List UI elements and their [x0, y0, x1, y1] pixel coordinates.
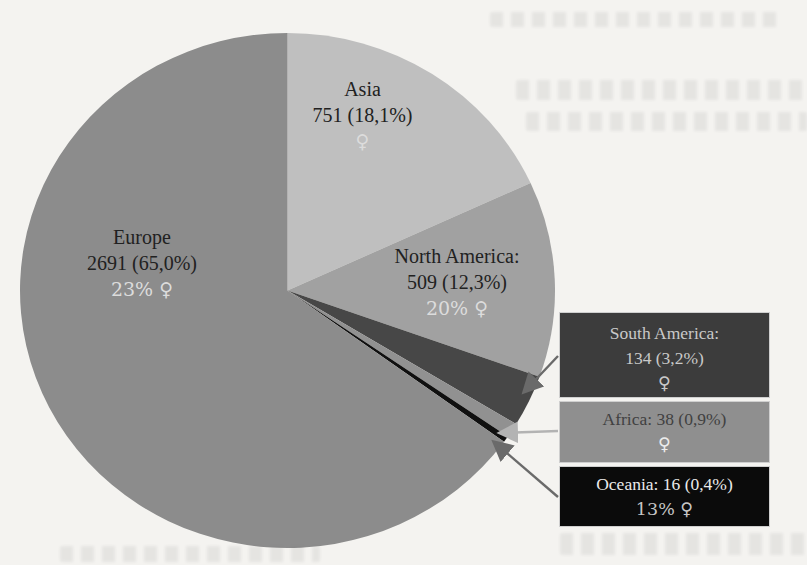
europe-slice-label: Europe 2691 (65,0%) 23% ♀: [72, 224, 212, 302]
asia-value: 751 (18,1%): [300, 102, 425, 128]
north-america-slice-label: North America: 509 (12,3%) 20% ♀: [378, 243, 536, 321]
africa-female-share: ♀: [560, 432, 769, 457]
legend-item-oceania: Oceania: 16 (0,4%) 13% ♀: [559, 466, 770, 527]
oceania-title: Oceania: 16 (0,4%): [560, 472, 769, 497]
africa-title: Africa: 38 (0,9%): [560, 407, 769, 432]
asia-slice-label: Asia 751 (18,1%) ♀: [300, 76, 425, 154]
arrow-oceania: [494, 442, 558, 497]
scanned-page: Asia 751 (18,1%) ♀ Europe 2691 (65,0%) 2…: [0, 0, 807, 565]
legend-item-africa: Africa: 38 (0,9%) ♀: [559, 401, 770, 463]
europe-female-share: 23% ♀: [72, 276, 212, 302]
europe-name: Europe: [72, 224, 212, 250]
oceania-female-share: 13% ♀: [560, 497, 769, 522]
callout-legend: South America: 134 (3,2%) ♀ Africa: 38 (…: [559, 312, 770, 527]
north-america-value: 509 (12,3%): [378, 269, 536, 295]
north-america-female-share: 20% ♀: [378, 295, 536, 321]
south-america-title: South America:: [560, 321, 769, 346]
europe-value: 2691 (65,0%): [72, 250, 212, 276]
south-america-female-share: ♀: [560, 371, 769, 396]
south-america-value: 134 (3,2%): [560, 346, 769, 371]
asia-female-share: ♀: [300, 128, 425, 154]
asia-name: Asia: [300, 76, 425, 102]
legend-item-south-america: South America: 134 (3,2%) ♀: [559, 312, 770, 398]
north-america-name: North America:: [378, 243, 536, 269]
